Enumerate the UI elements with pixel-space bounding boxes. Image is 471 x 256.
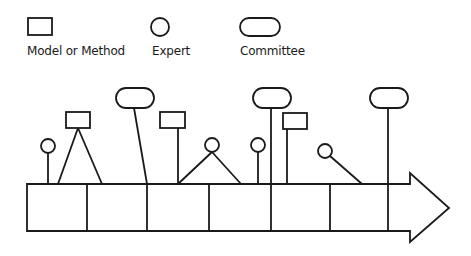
model-marker-1 bbox=[58, 112, 102, 184]
expert-marker-1 bbox=[41, 139, 55, 184]
expert-marker-3 bbox=[251, 138, 265, 184]
timeline-arrow bbox=[27, 173, 449, 242]
legend-expert-icon bbox=[151, 18, 169, 36]
committee-marker-1 bbox=[116, 88, 154, 184]
expert-marker-2 bbox=[178, 138, 241, 184]
legend-model-label: Model or Method bbox=[27, 44, 125, 58]
diagram-canvas bbox=[0, 0, 471, 256]
expert-marker-4 bbox=[318, 144, 362, 184]
legend-committee-label: Committee bbox=[240, 44, 305, 58]
segment-dividers bbox=[87, 184, 388, 231]
committee-marker-3 bbox=[370, 88, 408, 184]
legend-model-icon bbox=[28, 18, 52, 35]
model-marker-3 bbox=[283, 113, 307, 184]
legend-expert-label: Expert bbox=[152, 44, 190, 58]
legend-committee-icon bbox=[240, 18, 280, 36]
model-marker-2 bbox=[160, 112, 185, 184]
